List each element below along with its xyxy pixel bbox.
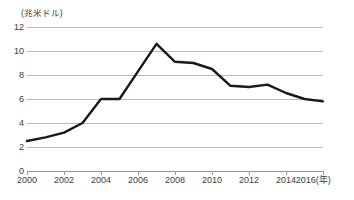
y-tick-label-8: 8: [0, 71, 24, 80]
y-axis-unit-label: (兆米ドル): [21, 6, 63, 18]
y-tick-label-2: 2: [0, 143, 24, 152]
x-tick-label-2016: 2016(年): [296, 176, 331, 185]
x-tick-label-2012: 2012: [239, 176, 259, 185]
x-tick-label-2014: 2014: [276, 176, 296, 185]
y-tick-label-10: 10: [0, 47, 24, 56]
y-tick-label-6: 6: [0, 95, 24, 104]
line-chart: (兆米ドル) 121086420 20002002200420062008201…: [0, 0, 354, 200]
x-tick-label-2002: 2002: [54, 176, 74, 185]
y-tick-label-4: 4: [0, 119, 24, 128]
x-axis-tick-labels: 200020022004200620082010201220142016(年): [27, 176, 323, 192]
y-tick-label-12: 12: [0, 23, 24, 32]
series-line-chart-svg: [27, 27, 323, 171]
x-tick-label-2010: 2010: [202, 176, 222, 185]
x-tick-label-2004: 2004: [91, 176, 111, 185]
x-tick-label-2000: 2000: [17, 176, 37, 185]
y-axis-tick-labels: 121086420: [0, 27, 24, 171]
series-1-line: [27, 44, 323, 141]
x-tick-label-2006: 2006: [128, 176, 148, 185]
x-tick-label-2008: 2008: [165, 176, 185, 185]
plot-area: [27, 27, 323, 171]
